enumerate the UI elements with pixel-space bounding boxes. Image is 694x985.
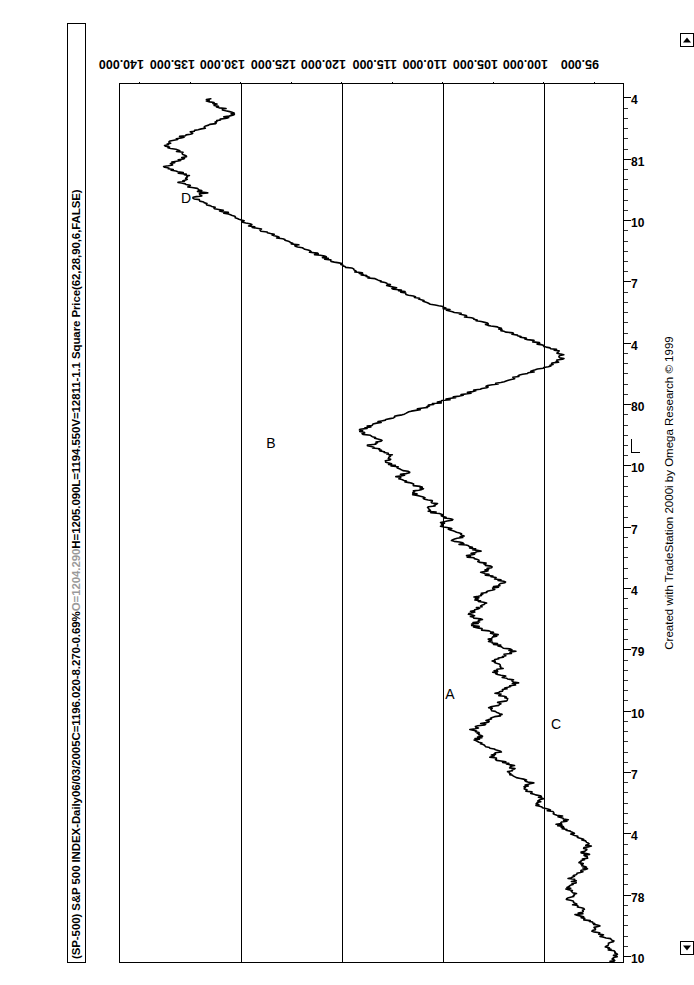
quote-bar: (SP-500) S&P 500 INDEX-Daily06/03/2005C=… [67,23,86,963]
date-tick-minor [624,547,628,548]
date-tick-minor [624,618,628,619]
quote-close: C=1196.020 [70,679,82,740]
date-tick-minor [624,915,628,916]
date-tick-major [624,833,631,834]
plot-area[interactable]: ABCD [119,83,624,963]
triangle-up-icon [683,38,691,43]
date-tick-minor [624,577,628,578]
date-tick-minor [624,557,628,558]
date-tick-minor [624,904,628,905]
date-axis-label: 10 [631,216,644,230]
date-axis-label: 4 [631,338,638,352]
price-axis-label: 115.000 [352,57,397,71]
date-axis-label: 7 [631,277,638,291]
date-tick-minor [624,812,628,813]
date-tick-minor [624,475,628,476]
indicator-label: -1.1 Square Price(62,28,90,6,FALSE) [70,189,82,381]
price-axis-label: 100.000 [503,57,548,71]
chart-window: (SP-500) S&P 500 INDEX-Daily06/03/2005C=… [67,23,627,963]
date-tick-minor [624,669,628,670]
date-axis-label: 78 [631,890,644,904]
price-series [120,84,623,962]
marker-c: C [550,716,560,732]
date-tick-minor [624,240,628,241]
date-tick-minor [624,506,628,507]
date-tick-minor [624,700,628,701]
date-tick-major [624,465,631,466]
date-tick-minor [624,128,628,129]
date-tick-minor [624,680,628,681]
date-tick-major [624,342,631,343]
date-tick-minor [624,823,628,824]
date-tick-major [624,772,631,773]
price-axis-label: 125.000 [251,57,296,71]
date-tick-major [624,526,631,527]
date-tick-minor [624,301,628,302]
date-tick-major [624,956,631,957]
date-axis-label: 79 [631,645,644,659]
date-tick-major [624,404,631,405]
date-tick-minor [624,352,628,353]
date-tick-minor [624,690,628,691]
date-axis-label: 4 [631,829,638,843]
date-tick-minor [624,230,628,231]
quote-low: L=1194.550 [70,426,82,486]
triangle-down-icon [683,946,691,951]
date-tick-minor [624,864,628,865]
scroll-up-button[interactable] [680,33,694,47]
date-tick-minor [624,383,628,384]
date-tick-major [624,649,631,650]
date-tick-minor [624,496,628,497]
date-tick-major [624,281,631,282]
price-axis-label: 130.000 [200,57,245,71]
date-tick-minor [624,312,628,313]
price-axis-label: 95.000 [560,57,598,71]
date-tick-minor [624,608,628,609]
date-tick-minor [624,761,628,762]
date-tick-minor [624,199,628,200]
date-tick-minor [624,751,628,752]
date-axis-label: 81 [631,154,644,168]
date-tick-minor [624,884,628,885]
price-axis-label: 110.000 [403,57,448,71]
date-tick-major [624,710,631,711]
date-tick-minor [624,628,628,629]
date-tick-minor [624,802,628,803]
quote-change-percent: -0.69% [70,611,82,647]
date-tick-minor [624,250,628,251]
date-axis-label: 4 [631,584,638,598]
date-tick-minor [624,414,628,415]
date-tick-minor [624,874,628,875]
date-tick-minor [624,209,628,210]
date-tick-minor [624,853,628,854]
date-tick-minor [624,720,628,721]
price-axis-label: 140.000 [99,57,144,71]
date-tick-minor [624,169,628,170]
date-axis-label: 10 [631,952,644,966]
date-tick-minor [624,843,628,844]
date-axis-label: 7 [631,522,638,536]
price-axis-label: 120.000 [301,57,346,71]
date-tick-minor [624,455,628,456]
date-axis-label: 10 [631,706,644,720]
quote-change: -8.270 [70,647,82,679]
vertical-scrollbar[interactable] [680,0,694,985]
date-tick-major [624,158,631,159]
marker-b: B [267,435,276,451]
date-axis-label: 80 [631,400,644,414]
marker-d: D [181,189,191,205]
symbol-title: (SP-500) S&P 500 INDEX-Daily [70,797,82,959]
date-tick-minor [624,107,628,108]
date-tick-major [624,97,631,98]
date-tick-minor [624,332,628,333]
date-tick-minor [624,741,628,742]
date-tick-minor [624,261,628,262]
date-tick-minor [624,393,628,394]
date-axis: 10784710794710804710814 [624,83,654,963]
date-tick-minor [624,373,628,374]
date-tick-minor [624,434,628,435]
date-tick-minor [624,444,628,445]
date-tick-major [624,588,631,589]
scroll-down-button[interactable] [680,941,694,955]
date-tick-minor [624,516,628,517]
